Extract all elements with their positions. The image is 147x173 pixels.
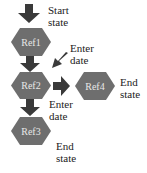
node-ref4: Ref4 — [75, 72, 115, 100]
end-state-label-ref4: End state — [120, 76, 140, 100]
node-ref2-label: Ref2 — [21, 80, 40, 91]
right-arrow-icon — [53, 76, 71, 96]
enter-date-label-2: Enter date — [49, 98, 73, 122]
down-arrow-icon — [19, 99, 41, 117]
node-ref4-label: Ref4 — [85, 81, 104, 92]
node-ref3-label: Ref3 — [21, 126, 40, 137]
node-ref1: Ref1 — [11, 28, 51, 56]
down-arrow-icon — [19, 56, 41, 73]
node-ref3: Ref3 — [11, 117, 51, 145]
enter-date-arrow-icon — [51, 52, 69, 69]
enter-date-label-1: Enter date — [70, 42, 94, 66]
start-arrow-icon — [17, 4, 41, 24]
node-ref1-label: Ref1 — [21, 37, 40, 48]
node-ref2: Ref2 — [11, 72, 51, 99]
end-state-label-ref3: End state — [56, 140, 76, 164]
start-state-label: Start state — [48, 4, 69, 28]
